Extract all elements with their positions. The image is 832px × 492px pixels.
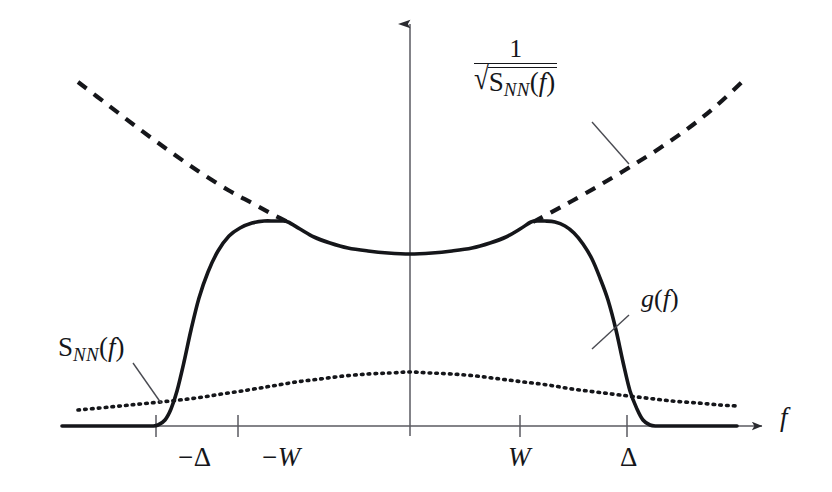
x-tick-label-minus-delta: −Δ <box>178 444 212 471</box>
snn-base: S <box>58 332 73 362</box>
envelope-segment-left <box>78 82 288 222</box>
open-paren: ( <box>654 284 663 313</box>
tick-symbol: W <box>278 442 301 472</box>
close-paren: ) <box>670 284 679 313</box>
envelope-segment-right <box>533 82 742 222</box>
square-root-icon: √ SNN(f) <box>474 67 557 99</box>
close-paren: ) <box>116 332 125 362</box>
snn-label: SNN(f) <box>58 334 125 364</box>
snn-subscript: NN <box>504 79 530 100</box>
curves-group <box>62 82 742 426</box>
fraction-numerator: 1 <box>474 36 557 62</box>
fraction-denominator: √ SNN(f) <box>474 66 557 99</box>
snn-subscript: NN <box>73 344 99 365</box>
g-argument: f <box>663 284 670 313</box>
open-paren: ( <box>530 67 539 97</box>
g-filter-curve <box>62 221 737 426</box>
snn-argument: f <box>108 332 116 362</box>
g-function-name: g <box>641 284 654 313</box>
radicand: SNN(f) <box>488 67 558 99</box>
tick-symbol: Δ <box>194 442 212 472</box>
leader-lines-group <box>133 122 629 403</box>
envelope-leader-line <box>592 122 629 164</box>
x-tick-label-minus-w: −W <box>262 444 301 471</box>
snn-base: S <box>489 67 504 97</box>
tick-symbol: W <box>508 442 531 472</box>
radical-sign: √ <box>474 64 489 102</box>
x-tick-label-w: W <box>508 444 531 471</box>
minus-sign: − <box>262 442 278 472</box>
plot-svg <box>0 0 832 492</box>
close-paren: ) <box>546 67 555 97</box>
inverse-sqrt-snn-label: 1 √ SNN(f) <box>474 36 557 99</box>
g-of-f-label: g(f) <box>641 286 679 312</box>
fraction: 1 √ SNN(f) <box>474 36 557 99</box>
axes-group <box>62 24 762 437</box>
x-tick-label-delta: Δ <box>620 444 638 471</box>
open-paren: ( <box>99 332 108 362</box>
x-axis-label: f <box>780 404 788 431</box>
g-leader-line <box>592 315 629 349</box>
minus-sign: − <box>178 442 194 472</box>
snn-leader-line <box>133 363 161 403</box>
figure-canvas: f −Δ−WWΔ 1 √ SNN(f) SNN(f) g(f) <box>0 0 832 492</box>
tick-symbol: Δ <box>620 442 638 472</box>
